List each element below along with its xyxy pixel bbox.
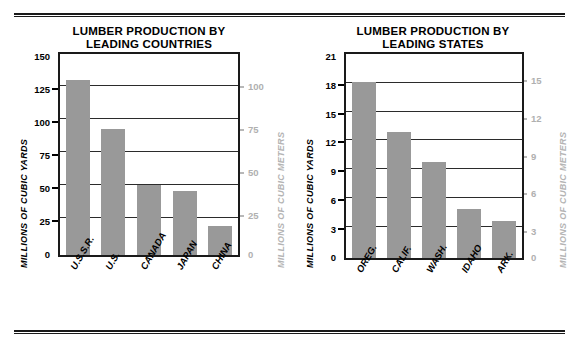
- y2-tick-15: 15: [531, 76, 542, 86]
- y2-tick-75: 75: [248, 125, 259, 135]
- y-tick-18: 18: [314, 81, 336, 91]
- x-axis-labels-states: OREG. CALIF. WASH. IDAHO ARK.: [294, 265, 572, 325]
- y2-tick-100: 100: [248, 82, 264, 92]
- top-double-rule: [14, 13, 565, 17]
- y2-tick-0: 0: [248, 250, 253, 260]
- y2-tick-25: 25: [248, 211, 259, 221]
- y-tick-3: 3: [314, 225, 336, 235]
- bar-series-countries: [60, 54, 238, 255]
- y-tick-15: 15: [314, 110, 336, 120]
- bar-oregon: [352, 82, 376, 258]
- chart-body-states: MILLIONS OF CUBIC YARDS MILLIONS OF CUBI…: [294, 56, 572, 308]
- bar-series-states: [346, 54, 522, 258]
- bar-california: [387, 132, 411, 258]
- plot-area-states: [344, 52, 524, 260]
- y2-tick-0: 0: [531, 253, 536, 263]
- y-tick-0: 0: [314, 253, 336, 263]
- chart-title-line2: LEADING STATES: [294, 38, 572, 51]
- y2-tick-6: 6: [531, 189, 536, 199]
- y-tick-25: 25: [26, 217, 50, 227]
- plot-area-countries: [58, 52, 240, 257]
- y-axis-label-right-countries: MILLIONS OF CUBIC METERS: [276, 132, 286, 268]
- y2-tick-3: 3: [531, 227, 536, 237]
- y2-tick-50: 50: [248, 168, 259, 178]
- y-tick-125: 125: [26, 85, 50, 95]
- y-tick-100: 100: [26, 118, 50, 128]
- y-tick-75: 75: [26, 151, 50, 161]
- y2-tick-9: 9: [531, 152, 536, 162]
- chart-title-line1: LUMBER PRODUCTION BY: [8, 25, 290, 38]
- chart-title-line2: LEADING COUNTRIES: [8, 38, 290, 51]
- chart-panel-countries: LUMBER PRODUCTION BY LEADING COUNTRIES M…: [8, 24, 290, 324]
- x-axis-labels-countries: U.S.S.R. U.S. CANADA JAPAN CHINA: [8, 262, 290, 322]
- y-tick-50: 50: [26, 184, 50, 194]
- y-axis-label-right-states: MILLIONS OF CUBIC METERS: [558, 132, 568, 268]
- y-tick-12: 12: [314, 138, 336, 148]
- y2-tick-12: 12: [531, 114, 542, 124]
- chart-title-line1: LUMBER PRODUCTION BY: [294, 25, 572, 38]
- y-tick-0: 0: [26, 250, 50, 260]
- y-tick-6: 6: [314, 196, 336, 206]
- y-tick-9: 9: [314, 167, 336, 177]
- bar-us: [101, 129, 125, 255]
- chart-panel-states: LUMBER PRODUCTION BY LEADING STATES MILL…: [294, 24, 572, 324]
- y-tick-21: 21: [314, 52, 336, 62]
- bar-ussr: [66, 80, 90, 255]
- chart-title-countries: LUMBER PRODUCTION BY LEADING COUNTRIES: [8, 24, 290, 51]
- bottom-double-rule: [14, 330, 565, 334]
- chart-title-states: LUMBER PRODUCTION BY LEADING STATES: [294, 24, 572, 51]
- y-tick-150: 150: [26, 52, 50, 62]
- chart-body-countries: MILLIONS OF CUBIC YARDS MILLIONS OF CUBI…: [8, 56, 290, 308]
